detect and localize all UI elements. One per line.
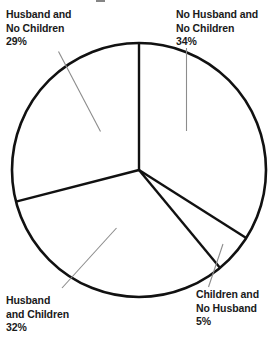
slice-label-line-2: No Children xyxy=(176,22,258,36)
slice-label-line-1: Husband xyxy=(6,294,69,308)
slice-label-no-husband-no-children: No Husband and No Children 34% xyxy=(176,8,258,49)
slice-label-husband-no-children: Husband and No Children 29% xyxy=(6,8,71,49)
slice-label-line-2: and Children xyxy=(6,308,69,322)
slice-label-percent: 5% xyxy=(196,315,259,329)
slice-label-percent: 32% xyxy=(6,321,69,335)
slice-label-children-no-husband: Children and No Husband 5% xyxy=(196,288,259,329)
pie-chart-figure: Husband and No Children 29% No Husband a… xyxy=(0,0,278,346)
slice-label-line-1: No Husband and xyxy=(176,8,258,22)
slice-label-percent: 34% xyxy=(176,35,258,49)
slice-label-line-2: No Children xyxy=(6,22,71,36)
slice-label-line-1: Husband and xyxy=(6,8,71,22)
slice-label-percent: 29% xyxy=(6,35,71,49)
slice-label-line-2: No Husband xyxy=(196,302,259,316)
slice-label-line-1: Children and xyxy=(196,288,259,302)
slice-label-husband-and-children: Husband and Children 32% xyxy=(6,294,69,335)
